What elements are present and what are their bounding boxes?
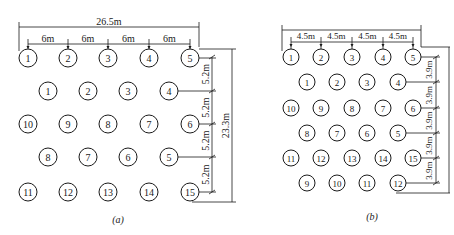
pile-number: 2 xyxy=(319,53,324,63)
pile: 5 xyxy=(160,148,178,166)
pile-number: 4 xyxy=(147,53,152,64)
arrow-icon xyxy=(351,44,354,47)
row-spacing-label: 5.2m xyxy=(200,64,211,85)
pile-number: 13 xyxy=(348,154,358,164)
pile-layout-diagrams: 26.5m6m6m6m6m123451234109876876511121314… xyxy=(0,0,454,235)
pile-number: 3 xyxy=(365,78,370,88)
pile: 15 xyxy=(181,183,199,201)
pile-number: 14 xyxy=(144,187,154,198)
pile: 7 xyxy=(329,125,345,141)
row-spacing-label: 5.2m xyxy=(200,164,211,185)
pile-number: 7 xyxy=(381,104,386,114)
pile-number: 1 xyxy=(46,86,51,97)
pile-number: 4 xyxy=(396,78,401,88)
pile: 6 xyxy=(405,100,421,116)
pile: 3 xyxy=(359,74,375,90)
pile: 8 xyxy=(344,100,360,116)
diagram-b: 4.5m4.5m4.5m4.5m123451234109876876511121… xyxy=(282,25,450,223)
pile: 5 xyxy=(405,49,421,65)
pile-number: 12 xyxy=(317,154,326,164)
pile: 11 xyxy=(359,175,375,191)
pile: 13 xyxy=(344,150,360,166)
pile: 11 xyxy=(283,150,299,166)
pile: 4 xyxy=(160,82,178,100)
figure-caption: (b) xyxy=(366,211,378,223)
row-spacing-label: 3.9m xyxy=(424,60,434,78)
overall-height-label: 23.3m xyxy=(220,113,231,139)
pile: 6 xyxy=(119,148,137,166)
pile: 14 xyxy=(140,183,158,201)
spacing-label: 6m xyxy=(163,33,176,44)
overall-width-label: 26.5m xyxy=(96,16,122,27)
pile-number: 1 xyxy=(305,78,310,88)
arrow-icon xyxy=(290,44,293,47)
pile-number: 9 xyxy=(319,104,324,114)
pile-number: 6 xyxy=(126,152,131,163)
spacing-label: 4.5m xyxy=(327,31,345,41)
pile-number: 6 xyxy=(411,104,416,114)
diagram-a: 26.5m6m6m6m6m123451234109876876511121314… xyxy=(19,16,236,226)
pile-number: 5 xyxy=(396,129,401,139)
pile-number: 7 xyxy=(335,129,340,139)
pile-number: 8 xyxy=(106,119,111,130)
pile-number: 8 xyxy=(350,104,355,114)
pile: 14 xyxy=(375,150,391,166)
pile: 1 xyxy=(39,82,57,100)
pile-number: 6 xyxy=(188,119,193,130)
pile-number: 8 xyxy=(305,129,310,139)
pile: 13 xyxy=(99,183,117,201)
pile: 15 xyxy=(405,150,421,166)
pile: 8 xyxy=(299,125,315,141)
pile: 2 xyxy=(79,82,97,100)
pile-number: 15 xyxy=(409,154,419,164)
pile-number: 4 xyxy=(167,86,172,97)
pile-number: 7 xyxy=(86,152,91,163)
pile-number: 7 xyxy=(147,119,152,130)
pile: 6 xyxy=(181,115,199,133)
pile: 2 xyxy=(59,49,77,67)
pile: 4 xyxy=(390,74,406,90)
pile-number: 5 xyxy=(188,53,193,64)
pile: 10 xyxy=(283,100,299,116)
pile-number: 9 xyxy=(66,119,71,130)
pile-number: 11 xyxy=(23,187,33,198)
spacing-label: 6m xyxy=(122,33,135,44)
pile: 1 xyxy=(283,49,299,65)
pile-number: 4 xyxy=(381,53,386,63)
pile: 12 xyxy=(59,183,77,201)
pile-number: 8 xyxy=(46,152,51,163)
pile: 7 xyxy=(375,100,391,116)
pile: 9 xyxy=(313,100,329,116)
pile-number: 11 xyxy=(363,179,372,189)
pile: 4 xyxy=(140,49,158,67)
pile: 7 xyxy=(79,148,97,166)
pile: 9 xyxy=(299,175,315,191)
pile: 11 xyxy=(19,183,37,201)
pile-number: 2 xyxy=(66,53,71,64)
pile-number: 6 xyxy=(365,129,370,139)
row-spacing-label: 5.2m xyxy=(200,97,211,118)
pile: 5 xyxy=(390,125,406,141)
pile: 5 xyxy=(181,49,199,67)
pile: 2 xyxy=(313,49,329,65)
pile-number: 9 xyxy=(305,179,310,189)
spacing-label: 6m xyxy=(82,33,95,44)
pile-number: 1 xyxy=(289,53,294,63)
pile: 3 xyxy=(119,82,137,100)
pile-number: 10 xyxy=(23,119,33,130)
pile: 3 xyxy=(99,49,117,67)
pile: 10 xyxy=(329,175,345,191)
row-spacing-label: 3.9m xyxy=(424,136,434,154)
pile-number: 1 xyxy=(26,53,31,64)
arrow-icon xyxy=(412,44,415,47)
pile: 1 xyxy=(299,74,315,90)
spacing-label: 6m xyxy=(42,33,55,44)
pile-number: 12 xyxy=(63,187,73,198)
row-spacing-label: 5.2m xyxy=(200,130,211,151)
pile: 8 xyxy=(99,115,117,133)
pile: 7 xyxy=(140,115,158,133)
pile-number: 2 xyxy=(86,86,91,97)
row-spacing-label: 3.9m xyxy=(424,86,434,104)
pile: 6 xyxy=(359,125,375,141)
pile-number: 12 xyxy=(394,179,403,189)
